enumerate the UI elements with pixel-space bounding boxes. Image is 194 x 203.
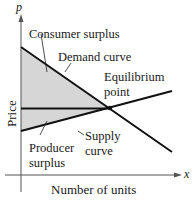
consumer-surplus-label: Consumer surplus <box>29 28 120 41</box>
producer-surplus-label-line1: Producer <box>29 142 74 155</box>
supply-curve-label-line1: Supply <box>85 130 120 143</box>
y-axis-label: Price <box>4 100 20 127</box>
producer-surplus-label-line2: surplus <box>29 157 65 170</box>
equilibrium-point <box>108 106 112 110</box>
x-axis-variable: x <box>184 168 189 181</box>
demand-curve-label: Demand curve <box>58 51 131 64</box>
x-axis-arrow-icon <box>174 173 182 178</box>
equilibrium-label-line2: point <box>104 86 130 99</box>
supply-curve-label-line2: curve <box>85 145 113 158</box>
demand-curve-leader <box>65 63 71 72</box>
y-axis-arrow-icon <box>19 14 24 22</box>
supply-curve-leader <box>78 131 84 135</box>
y-axis-variable: p <box>16 1 22 14</box>
equilibrium-label-line1: Equilibrium <box>104 71 164 84</box>
x-axis-label: Number of units <box>51 183 136 196</box>
